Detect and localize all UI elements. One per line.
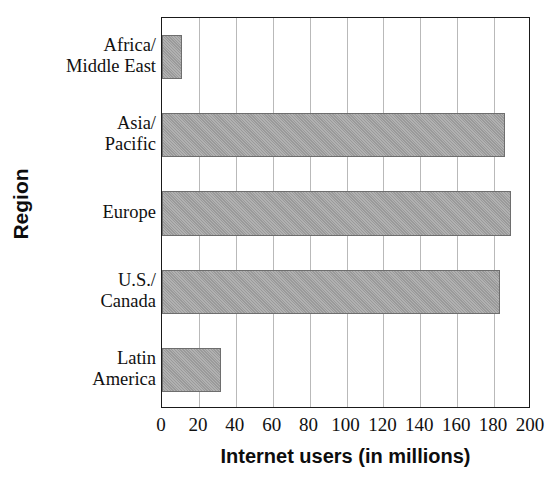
bar-chart: Region Africa/ Middle EastAsia/ PacificE… [0,0,554,478]
y-axis-title: Region [8,159,34,249]
bar [162,35,182,79]
bar [162,348,221,392]
bar [162,270,500,314]
y-axis-tick-label: Africa/ Middle East [34,35,156,77]
y-axis-tick-label: U.S./ Canada [34,270,156,312]
y-axis-tick-label: Latin America [34,348,156,390]
y-axis-tick-label: Europe [34,202,156,223]
bar [162,113,505,157]
bars-layer [162,18,529,407]
x-axis-tick-labels: 020406080100120140160180200 [161,413,530,439]
x-axis-tick-label: 200 [500,413,554,437]
bar [162,191,511,235]
plot-area [161,17,530,408]
x-axis-title: Internet users (in millions) [161,445,530,468]
y-axis-tick-label: Asia/ Pacific [34,113,156,155]
y-axis-tick-labels: Africa/ Middle EastAsia/ PacificEuropeU.… [34,17,156,408]
